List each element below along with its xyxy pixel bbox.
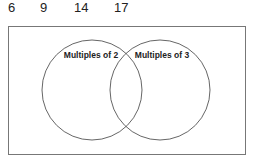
venn-diagram: Multiples of 2 Multiples of 3 [0, 0, 253, 161]
set-label-multiples-of-3: Multiples of 3 [135, 50, 190, 60]
set-label-multiples-of-2: Multiples of 2 [64, 50, 119, 60]
